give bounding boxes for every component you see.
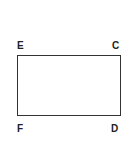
vertex-label-d: D (111, 124, 118, 134)
vertex-label-c: C (112, 41, 119, 51)
rectangle-ecdf (17, 55, 121, 116)
vertex-label-f: F (17, 124, 23, 134)
vertex-label-e: E (17, 41, 24, 51)
